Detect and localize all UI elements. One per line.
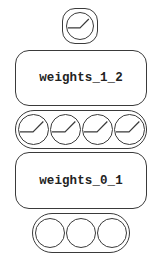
input-node [35,218,65,248]
gauge-icon [51,115,80,144]
hidden-node [50,114,81,145]
weights-1-2-box: weights_1_2 [15,50,147,106]
gauge-icon [19,115,48,144]
hidden-node [18,114,49,145]
input-node [97,218,127,248]
output-layer [62,8,98,44]
input-node [66,218,96,248]
input-layer [32,213,130,253]
weights-1-2-label: weights_1_2 [39,71,123,85]
weights-0-1-box: weights_0_1 [15,152,147,209]
output-node [66,12,94,40]
weights-0-1-label: weights_0_1 [39,174,123,188]
gauge-icon [83,115,112,144]
hidden-layer [15,110,147,149]
hidden-node [82,114,113,145]
gauge-icon [67,13,93,39]
hidden-node [114,114,145,145]
gauge-icon [115,115,144,144]
